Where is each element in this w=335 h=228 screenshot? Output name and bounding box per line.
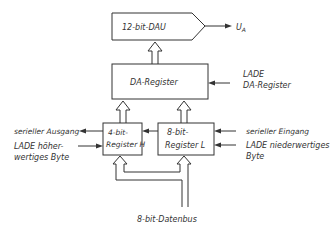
load-da-label-2: DA-Register: [243, 81, 292, 90]
load-high-label-1: LADE höher-: [14, 142, 63, 151]
output-voltage-label: UA: [236, 23, 246, 33]
arrow-left-icon: [79, 129, 86, 134]
bus-arrow-l-to-da: [177, 101, 191, 123]
register-l-line1: 8-bit-: [167, 128, 188, 137]
dac-label: 12-bit-DAU: [122, 23, 166, 32]
arrow-right-icon: [225, 24, 232, 29]
serial-output-label: serieller Ausgang: [14, 127, 79, 136]
register-h-line2: Register H: [106, 140, 146, 149]
load-low-label-2: Byte: [246, 152, 264, 161]
arrow-left-icon: [214, 143, 221, 148]
dac-block-diagram: 12-bit-DAU UA DA-Register LADE DA-Regist…: [0, 0, 335, 228]
serial-input-label: serieller Eingang: [246, 127, 309, 136]
arrow-left-icon: [142, 129, 149, 134]
load-da-label-1: LADE: [243, 70, 265, 79]
arrow-left-icon: [214, 129, 221, 134]
bus-arrow-h-to-da: [116, 101, 130, 123]
register-l-line2: Register L: [165, 141, 205, 150]
arrow-right-icon: [96, 144, 103, 149]
load-low-label-1: LADE niederwertiges: [246, 141, 329, 150]
register-h-line1: 4-bit-: [108, 128, 128, 137]
arrow-left-icon: [208, 81, 215, 86]
load-high-label-2: wertiges Byte: [14, 153, 69, 162]
da-register-label: DA-Register: [130, 78, 179, 87]
bus-arrow-da-to-dac: [148, 42, 162, 64]
databus-label: 8-bit-Datenbus: [137, 215, 197, 224]
databus: [113, 156, 191, 207]
